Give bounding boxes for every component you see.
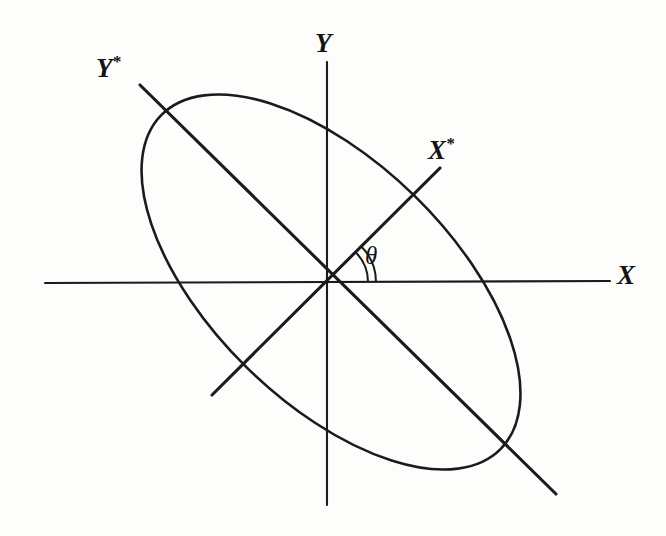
figure-canvas: X Y X* Y* θ [0,0,666,536]
y-axis-label: Y [315,30,332,57]
x-axis-label: X [617,262,635,289]
x-star-superscript: * [447,134,455,153]
y-star-axis-label: Y* [96,54,121,82]
theta-angle-label: θ [365,243,377,268]
theta-angle-label-text: θ [365,242,377,269]
y-star-axis-line [140,85,556,494]
x-star-axis-label: X* [428,136,455,164]
x-axis-label-text: X [617,260,635,290]
y-star-superscript: * [113,52,121,71]
x-star-axis-label-text: X [428,135,446,165]
y-axis-label-text: Y [315,28,332,58]
y-star-axis-label-text: Y [96,53,113,83]
